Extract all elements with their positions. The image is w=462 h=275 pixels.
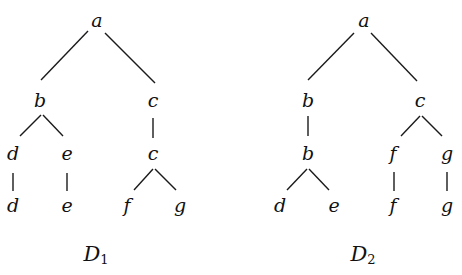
tree-node: f xyxy=(389,196,396,215)
tree-node: f xyxy=(123,196,130,215)
tree-node: d xyxy=(7,196,19,215)
tree-edges xyxy=(0,0,462,275)
tree-node: c xyxy=(148,144,159,163)
tree-edge xyxy=(155,169,176,190)
tree-edge xyxy=(308,33,354,80)
tree-edge xyxy=(287,169,307,190)
tree-edge xyxy=(134,169,153,190)
tree-node: b xyxy=(34,91,46,110)
tree-node: e xyxy=(328,196,339,215)
tree-node: a xyxy=(358,11,369,30)
tree-edge xyxy=(41,31,88,80)
tree-node: b xyxy=(302,91,314,110)
tree-edge xyxy=(422,116,442,136)
tree-edge xyxy=(43,115,63,136)
tree-caption: D1 xyxy=(83,244,108,266)
tree-node: d xyxy=(7,144,19,163)
tree-node: g xyxy=(174,196,186,215)
tree-caption-subscript: 2 xyxy=(367,252,375,267)
tree-node: a xyxy=(91,11,102,30)
tree-diagram: abcdecdefgD1abcbfgdefgD2 xyxy=(0,0,462,275)
tree-node: g xyxy=(441,144,453,163)
tree-edge xyxy=(20,115,41,136)
tree-node: b xyxy=(302,144,314,163)
tree-caption-subscript: 1 xyxy=(100,252,108,267)
tree-edge xyxy=(371,33,417,81)
tree-node: g xyxy=(441,196,453,215)
tree-caption-letter: D xyxy=(350,242,367,266)
tree-node: f xyxy=(389,144,396,163)
tree-node: d xyxy=(274,196,286,215)
tree-node: c xyxy=(415,91,426,110)
tree-edge xyxy=(105,33,155,83)
tree-caption: D2 xyxy=(350,244,375,266)
tree-node: e xyxy=(61,196,72,215)
tree-edge xyxy=(309,169,329,190)
tree-node: e xyxy=(61,144,72,163)
tree-node: c xyxy=(148,91,159,110)
tree-edge xyxy=(401,116,420,136)
tree-caption-letter: D xyxy=(83,242,100,266)
